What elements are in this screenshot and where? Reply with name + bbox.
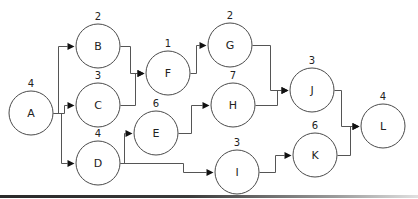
edge-j-to-l: [335, 91, 360, 131]
node-duration: 4: [28, 78, 34, 89]
arrowhead-icon: [68, 102, 75, 109]
node-duration: 4: [380, 91, 386, 102]
connector-line: [191, 46, 200, 74]
node-k: K6: [293, 120, 337, 178]
connector-line: [121, 74, 138, 106]
connector-line: [121, 47, 138, 74]
edge-f-to-g: [191, 42, 207, 74]
connector-line: [59, 114, 68, 164]
connector-line: [54, 106, 68, 114]
node-d: D4: [76, 128, 120, 186]
edge-e-to-h: [179, 102, 210, 134]
arrowhead-icon: [138, 70, 145, 77]
edge-a-to-b: [54, 43, 75, 114]
node-duration: 4: [95, 128, 101, 139]
node-label: F: [165, 67, 171, 80]
node-duration: 2: [227, 10, 233, 21]
node-g: G2: [208, 10, 252, 68]
node-b: B2: [76, 11, 120, 69]
node-duration: 6: [312, 120, 318, 131]
node-label: J: [309, 84, 313, 97]
node-label: E: [153, 127, 160, 140]
node-label: K: [311, 149, 319, 162]
node-i: I3: [215, 137, 259, 195]
node-label: L: [380, 120, 387, 133]
connector-line: [121, 164, 207, 173]
node-h: H7: [211, 70, 255, 128]
arrowhead-icon: [207, 169, 214, 176]
connector-line: [256, 91, 282, 106]
arrowhead-icon: [282, 87, 289, 94]
node-duration: 3: [309, 55, 315, 66]
node-label: H: [229, 99, 237, 112]
arrowhead-icon: [353, 123, 360, 130]
edge-d-to-e: [121, 130, 133, 164]
node-label: I: [235, 166, 238, 179]
edge-a-to-d: [59, 114, 75, 168]
connector-line: [121, 134, 126, 164]
node-duration: 6: [153, 98, 159, 109]
connector-line: [260, 156, 285, 173]
node-duration: 3: [234, 137, 240, 148]
arrowhead-icon: [200, 42, 207, 49]
node-label: A: [27, 107, 35, 120]
connector-line: [253, 46, 282, 91]
edge-d-to-i: [121, 164, 214, 177]
node-c: C3: [76, 70, 120, 128]
node-duration: 7: [230, 70, 236, 81]
edge-a-to-c: [54, 102, 75, 114]
bottom-divider: [0, 195, 418, 198]
connector-line: [179, 106, 203, 134]
node-label: G: [226, 39, 235, 52]
node-label: D: [94, 157, 102, 170]
edge-h-to-j: [256, 87, 289, 106]
arrowhead-icon: [68, 43, 75, 50]
connector-line: [335, 91, 353, 127]
node-e: E6: [134, 98, 178, 156]
node-duration: 3: [95, 70, 101, 81]
arrowhead-icon: [68, 160, 75, 167]
connector-line: [338, 127, 353, 156]
node-j: J3: [290, 55, 334, 113]
arrowhead-icon: [203, 102, 210, 109]
edge-k-to-l: [338, 123, 360, 156]
node-label: B: [94, 40, 102, 53]
node-f: F1: [146, 38, 190, 96]
arrowhead-icon: [285, 152, 292, 159]
activity-network-diagram: A4B2C3D4E6F1G2H7I3J3K6L4: [0, 0, 418, 199]
edge-c-to-f: [121, 70, 145, 106]
node-duration: 2: [95, 11, 101, 22]
connector-line: [54, 47, 68, 114]
arrowhead-icon: [126, 130, 133, 137]
node-label: C: [94, 99, 102, 112]
node-l: L4: [361, 91, 405, 149]
node-duration: 1: [165, 38, 171, 49]
edge-i-to-k: [260, 152, 292, 173]
node-a: A4: [9, 78, 53, 136]
edge-g-to-j: [253, 46, 289, 95]
